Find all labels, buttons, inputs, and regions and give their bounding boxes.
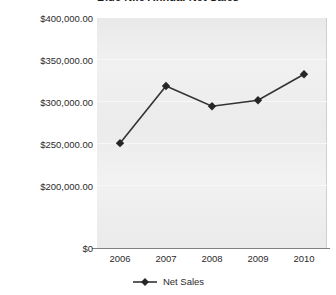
series-plot	[0, 0, 336, 295]
legend-marker-icon	[132, 277, 158, 287]
legend-label: Net Sales	[163, 276, 204, 287]
data-point-2009	[254, 96, 262, 104]
data-point-2008	[208, 102, 216, 110]
data-point-2010	[300, 70, 308, 78]
series-markers	[116, 70, 308, 147]
legend: Net Sales	[0, 276, 336, 287]
line-chart: Blue Nile Annual Net Sales In Thousands …	[0, 0, 336, 295]
